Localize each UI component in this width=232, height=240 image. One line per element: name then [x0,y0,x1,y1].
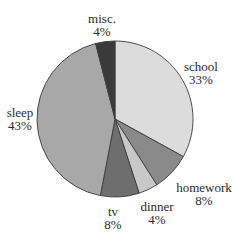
slice-percent: 4% [88,25,116,38]
slice-percent: 43% [7,119,34,132]
slice-label-sleep: sleep 43% [7,106,34,132]
slice-percent: 33% [184,73,218,86]
slice-label-tv: tv 8% [104,205,121,231]
pie-slices [37,41,193,197]
slice-percent: 4% [140,213,173,226]
slice-percent: 8% [176,194,232,207]
slice-label-school: school 33% [184,60,218,86]
slice-label-dinner: dinner 4% [140,200,173,226]
slice-percent: 8% [104,218,121,231]
slice-label-misc: misc. 4% [88,12,116,38]
slice-label-homework: homework 8% [176,181,232,207]
